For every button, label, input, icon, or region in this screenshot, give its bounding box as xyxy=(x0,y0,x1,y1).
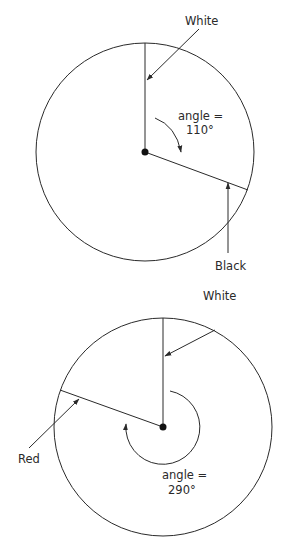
black-hand xyxy=(145,152,248,190)
center-dot xyxy=(160,424,167,431)
white-label: White xyxy=(185,14,218,28)
diagram-top: White Black angle = 110° xyxy=(36,14,254,273)
angle-label-line1: angle = xyxy=(178,109,223,123)
diagram-bottom: White Red angle = 290° xyxy=(18,289,272,536)
red-pointer-arrow xyxy=(29,399,79,448)
center-dot xyxy=(142,149,149,156)
white-pointer-arrow xyxy=(165,330,215,356)
white-pointer-arrow xyxy=(147,29,199,80)
angle-arc-arrow xyxy=(155,118,181,152)
angle-diagrams: White Black angle = 110° White Red angle… xyxy=(0,0,285,549)
white-label: White xyxy=(203,289,236,303)
angle-label-line2: 110° xyxy=(186,123,214,137)
angle-label-line2: 290° xyxy=(168,483,196,497)
red-label: Red xyxy=(18,452,40,466)
red-hand xyxy=(60,390,163,427)
angle-label-line1: angle = xyxy=(162,468,207,482)
black-label: Black xyxy=(215,259,246,273)
